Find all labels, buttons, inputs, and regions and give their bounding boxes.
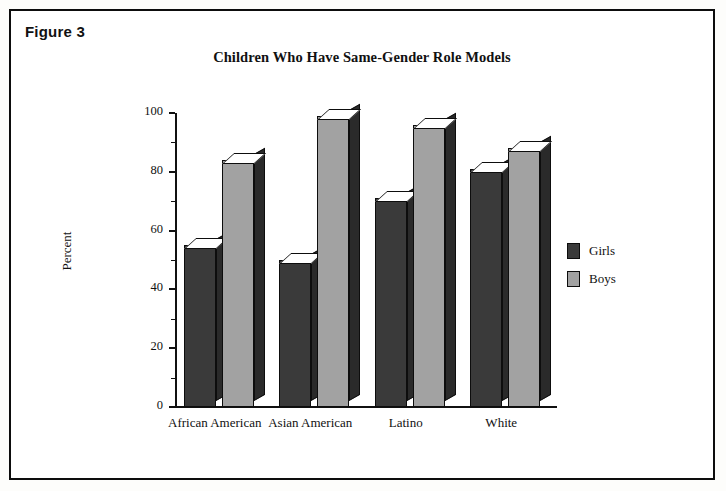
y-tick-label: 60 [129, 222, 163, 237]
bar-side-face [540, 136, 551, 401]
bar-boys-3 [508, 148, 540, 407]
bar-front-face [222, 160, 254, 407]
legend-label-boys: Boys [589, 269, 616, 289]
bar-girls-3 [470, 169, 502, 407]
bar-front-face [375, 198, 407, 407]
bar-front-face [470, 169, 502, 407]
bar-girls-1 [279, 260, 311, 407]
legend-swatch-boys [567, 271, 580, 287]
y-tick-label: 20 [129, 339, 163, 354]
bar-side-face [349, 104, 360, 401]
figure-border: Figure 3 Children Who Have Same-Gender R… [9, 9, 715, 480]
bar-boys-2 [413, 125, 445, 407]
x-tick-label: African American [167, 415, 263, 431]
bar-boys-1 [317, 116, 349, 407]
y-tick-major [169, 112, 175, 114]
bar-girls-0 [184, 245, 216, 407]
bar-front-face [184, 245, 216, 407]
figure-page: Figure 3 Children Who Have Same-Gender R… [0, 0, 726, 491]
bar-side-face [445, 112, 456, 401]
x-tick-label: Asian American [263, 415, 359, 431]
y-tick-label: 100 [129, 104, 163, 119]
legend-swatch-girls [567, 243, 580, 259]
x-tick-label: Latino [358, 415, 454, 431]
y-tick-major [169, 230, 175, 232]
bar-front-face [317, 116, 349, 407]
y-tick-major [169, 288, 175, 290]
y-tick-minor [171, 378, 175, 379]
y-tick-minor [171, 260, 175, 261]
y-tick-label: 80 [129, 163, 163, 178]
y-tick-label: 40 [129, 280, 163, 295]
legend-label-girls: Girls [589, 241, 615, 261]
bar-boys-0 [222, 160, 254, 407]
y-tick-major [169, 406, 175, 408]
y-tick-minor [171, 319, 175, 320]
bar-front-face [413, 125, 445, 407]
y-tick-major [169, 171, 175, 173]
bar-side-face [254, 148, 265, 401]
bar-girls-2 [375, 198, 407, 407]
y-axis-label: Percent [59, 191, 75, 311]
y-tick-minor [171, 142, 175, 143]
bar-front-face [279, 260, 311, 407]
y-tick-minor [171, 201, 175, 202]
bar-front-face [508, 148, 540, 407]
y-tick-label: 0 [129, 398, 163, 413]
y-tick-major [169, 347, 175, 349]
x-tick-label: White [454, 415, 550, 431]
y-axis [175, 113, 177, 408]
